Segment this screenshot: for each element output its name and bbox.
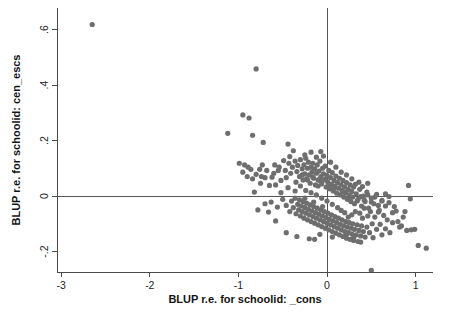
- data-point: [385, 217, 390, 222]
- data-point: [339, 208, 344, 213]
- data-point: [287, 154, 292, 159]
- data-point: [383, 226, 388, 231]
- data-point: [331, 186, 336, 191]
- data-point: [264, 168, 269, 173]
- data-point: [324, 198, 329, 203]
- x-tick-label: 1: [413, 279, 419, 291]
- data-point: [250, 176, 255, 181]
- data-point: [406, 183, 411, 188]
- data-point: [302, 196, 307, 201]
- data-point: [317, 232, 322, 237]
- data-point: [374, 227, 379, 232]
- y-tick-label: .4: [38, 80, 50, 89]
- data-point: [255, 207, 260, 212]
- data-point: [360, 216, 365, 221]
- data-point: [275, 205, 280, 210]
- data-point: [254, 172, 259, 177]
- data-point: [362, 206, 367, 211]
- x-tick-label: -2: [145, 279, 154, 291]
- data-point: [291, 205, 296, 210]
- data-point: [370, 235, 375, 240]
- x-tick-label: 0: [324, 279, 330, 291]
- data-point: [395, 219, 400, 224]
- data-point: [257, 167, 262, 172]
- data-point: [320, 204, 325, 209]
- data-point: [293, 188, 298, 193]
- data-point: [365, 213, 370, 218]
- data-point: [260, 162, 265, 167]
- plot-canvas: -3-2-101 .6.4.20-.2 BLUP r.e. for school…: [0, 0, 449, 320]
- data-point: [386, 200, 391, 205]
- data-point: [300, 172, 305, 177]
- data-point: [237, 161, 242, 166]
- data-point: [266, 209, 271, 214]
- data-point: [360, 184, 365, 189]
- data-point: [390, 220, 395, 225]
- y-tick-label: 0: [38, 193, 50, 199]
- data-point: [276, 168, 281, 173]
- data-point: [272, 162, 277, 167]
- data-point: [273, 182, 278, 187]
- data-point: [303, 188, 308, 193]
- data-point: [302, 152, 307, 157]
- data-point: [262, 201, 267, 206]
- data-point: [317, 158, 322, 163]
- data-point: [372, 195, 377, 200]
- data-point: [368, 209, 373, 214]
- data-point: [367, 230, 372, 235]
- data-point: [225, 131, 230, 136]
- data-point: [346, 214, 351, 219]
- data-point: [365, 181, 370, 186]
- data-point: [293, 158, 298, 163]
- data-point: [354, 191, 359, 196]
- data-point: [291, 148, 296, 153]
- data-point: [326, 183, 331, 188]
- y-tick-label: -.2: [38, 245, 50, 257]
- data-point: [404, 228, 409, 233]
- data-point: [288, 171, 293, 176]
- data-point: [378, 222, 383, 227]
- data-point: [351, 235, 356, 240]
- data-point: [358, 233, 363, 238]
- data-point: [316, 183, 321, 188]
- data-point: [358, 239, 363, 244]
- data-point: [383, 191, 388, 196]
- data-point: [321, 153, 326, 158]
- data-point: [90, 22, 95, 27]
- data-point: [254, 66, 259, 71]
- data-point: [352, 227, 357, 232]
- x-tick-label: -3: [57, 279, 66, 291]
- data-point: [258, 181, 263, 186]
- data-point: [361, 229, 366, 234]
- y-tick-label: .2: [38, 136, 50, 145]
- data-point: [285, 185, 290, 190]
- data-point: [246, 115, 251, 120]
- data-point: [283, 168, 288, 173]
- data-point: [269, 175, 274, 180]
- data-point: [344, 172, 349, 177]
- data-point: [401, 214, 406, 219]
- data-point: [259, 174, 264, 179]
- data-point: [379, 232, 384, 237]
- data-point: [357, 211, 362, 216]
- y-tick-label: .6: [38, 25, 50, 34]
- data-point: [311, 200, 316, 205]
- data-point: [312, 237, 317, 242]
- data-point: [370, 221, 375, 226]
- data-point: [269, 200, 274, 205]
- data-point: [402, 209, 407, 214]
- data-point: [317, 178, 322, 183]
- x-axis-title: BLUP r.e. for schoolid: _cons: [168, 293, 321, 305]
- data-point: [293, 196, 298, 201]
- data-point: [290, 165, 295, 170]
- data-point: [372, 214, 377, 219]
- data-point: [310, 175, 315, 180]
- data-point: [387, 230, 392, 235]
- data-point: [412, 227, 417, 232]
- data-point: [284, 230, 289, 235]
- data-point: [355, 222, 360, 227]
- data-point: [359, 223, 364, 228]
- data-point: [240, 112, 245, 117]
- y-axis-title: BLUP r.e. for schoolid: cen_escs: [10, 55, 22, 226]
- data-point: [379, 198, 384, 203]
